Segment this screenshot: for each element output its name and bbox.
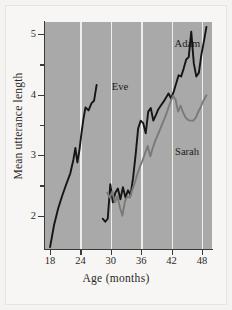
x-tick-label-36: 36 [131,256,151,267]
series-line-adam [103,27,207,222]
y-tick-label-3: 3 [22,150,36,161]
y-tick-minor-4.5 [40,64,44,65]
y-tick-minor-2.5 [40,185,44,186]
x-tick-label-18: 18 [40,256,60,267]
y-tick-3 [38,155,44,156]
x-tick-label-24: 24 [70,256,90,267]
x-axis-title: Age (months) [0,272,232,284]
series-label-adam: Adam [175,39,201,50]
series-line-eve [50,85,97,247]
y-axis-title: Mean utterance length [12,46,24,206]
y-tick-4 [38,95,44,96]
y-axis-line [44,21,45,250]
series-label-eve: Eve [112,82,128,93]
x-tick-label-42: 42 [162,256,182,267]
y-tick-label-5: 5 [22,29,36,40]
x-axis-line [44,249,213,250]
y-tick-label-2: 2 [22,211,36,222]
y-tick-2 [38,216,44,217]
series-label-sarah: Sarah [175,147,199,158]
x-tick-label-48: 48 [192,256,212,267]
y-tick-minor-3.5 [40,125,44,126]
x-tick-label-30: 30 [101,256,121,267]
y-tick-5 [38,34,44,35]
y-tick-label-4: 4 [22,90,36,101]
figure-container: 2345182430364248 EveAdamSarah Age (month… [0,0,232,310]
